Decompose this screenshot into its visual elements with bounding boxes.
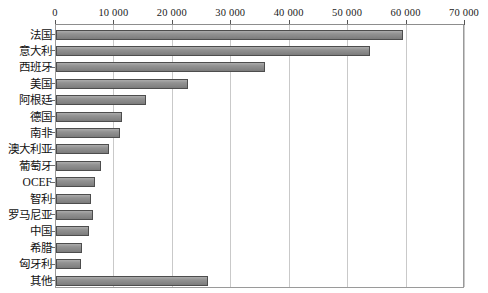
y-tick-mark: [50, 280, 55, 281]
chart-row: 匈牙利: [0, 256, 488, 272]
bar: [56, 194, 91, 204]
chart-row: 阿根廷: [0, 92, 488, 108]
bar: [56, 226, 89, 236]
x-axis-labels: 010 00020 00030 00040 00050 00060 00070 …: [0, 6, 488, 20]
category-label: 其他: [30, 273, 52, 289]
chart-row: 澳大利亚: [0, 141, 488, 157]
bar: [56, 112, 122, 122]
chart-row: 中国: [0, 223, 488, 239]
bar: [56, 30, 403, 40]
chart-row: 法国: [0, 27, 488, 43]
category-label: 智利: [30, 191, 52, 207]
x-tick-label: 30 000: [215, 6, 245, 19]
bar: [56, 46, 370, 56]
x-tick-label: 40 000: [274, 6, 304, 19]
y-tick-mark: [50, 100, 55, 101]
chart-rows: 法国意大利西班牙美国阿根廷德国南非澳大利亚葡萄牙OCEF智利罗马尼亚中国希腊匈牙…: [0, 24, 488, 288]
category-label: 澳大利亚: [8, 141, 52, 157]
category-label: 中国: [30, 223, 52, 239]
x-tick-label: 0: [52, 6, 57, 19]
y-tick-mark: [50, 231, 55, 232]
bar: [56, 210, 93, 220]
chart-row: 罗马尼亚: [0, 207, 488, 223]
y-tick-mark: [50, 198, 55, 199]
chart-row: 德国: [0, 109, 488, 125]
chart-row: 葡萄牙: [0, 158, 488, 174]
bar: [56, 243, 82, 253]
y-tick-mark: [50, 132, 55, 133]
category-label: 意大利: [19, 43, 52, 59]
bar: [56, 161, 101, 171]
y-tick-mark: [50, 116, 55, 117]
x-tick-label: 20 000: [157, 6, 187, 19]
y-tick-mark: [50, 214, 55, 215]
category-label: 葡萄牙: [19, 158, 52, 174]
y-tick-mark: [50, 149, 55, 150]
category-label: 德国: [30, 109, 52, 125]
x-tick-label: 50 000: [332, 6, 362, 19]
y-tick-mark: [50, 83, 55, 84]
category-label: 匈牙利: [19, 256, 52, 272]
y-tick-mark: [50, 50, 55, 51]
bar: [56, 177, 95, 187]
y-tick-mark: [50, 182, 55, 183]
x-tick-label: 70 000: [449, 6, 479, 19]
chart-row: 南非: [0, 125, 488, 141]
chart-row: 其他: [0, 273, 488, 289]
bar: [56, 259, 81, 269]
category-label: 西班牙: [19, 59, 52, 75]
y-tick-mark: [50, 264, 55, 265]
x-tick-label: 10 000: [98, 6, 128, 19]
chart-row: OCEF: [0, 174, 488, 190]
bar: [56, 144, 109, 154]
bar: [56, 276, 208, 286]
y-tick-mark: [50, 34, 55, 35]
category-label: 南非: [30, 125, 52, 141]
category-label: 阿根廷: [19, 92, 52, 108]
category-label: 法国: [30, 27, 52, 43]
x-tick-label: 60 000: [391, 6, 421, 19]
chart-row: 意大利: [0, 43, 488, 59]
bar: [56, 128, 120, 138]
bar-chart: 010 00020 00030 00040 00050 00060 00070 …: [0, 0, 488, 293]
category-label: 美国: [30, 76, 52, 92]
category-label: 罗马尼亚: [8, 207, 52, 223]
y-tick-mark: [50, 67, 55, 68]
bar: [56, 79, 188, 89]
chart-row: 智利: [0, 191, 488, 207]
category-label: OCEF: [23, 174, 52, 190]
chart-row: 希腊: [0, 240, 488, 256]
category-label: 希腊: [30, 240, 52, 256]
chart-row: 西班牙: [0, 59, 488, 75]
bar: [56, 62, 265, 72]
chart-row: 美国: [0, 76, 488, 92]
y-tick-mark: [50, 165, 55, 166]
y-tick-mark: [50, 247, 55, 248]
bar: [56, 95, 146, 105]
